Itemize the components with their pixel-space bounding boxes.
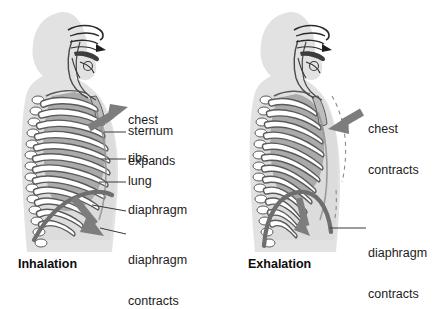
panel-inhalation (22, 12, 128, 252)
label-diaphragm: diaphragm (128, 204, 187, 218)
label-ribs: ribs (128, 152, 148, 166)
label-diaphragm-contracts-inhalation: diaphragm contracts (128, 227, 187, 309)
label-diaphragm-contracts-line1: diaphragm (128, 254, 187, 268)
label-diaphragm-contracts-exhalation: diaphragm contracts (368, 220, 427, 309)
label-chest-contracts-line1: chest (368, 123, 419, 137)
label-diaphragm-contracts-ex-line1: diaphragm (368, 247, 427, 261)
label-lung: lung (128, 175, 152, 189)
caption-inhalation: Inhalation (18, 257, 77, 271)
label-chest-contracts: chest contracts (368, 96, 419, 204)
label-chest-contracts-line2: contracts (368, 164, 419, 178)
label-sternum: sternum (128, 125, 173, 139)
label-diaphragm-contracts-line2: contracts (128, 295, 187, 309)
label-diaphragm-contracts-ex-line2: contracts (368, 288, 427, 302)
caption-exhalation: Exhalation (248, 257, 311, 271)
panel-exhalation (250, 12, 366, 252)
